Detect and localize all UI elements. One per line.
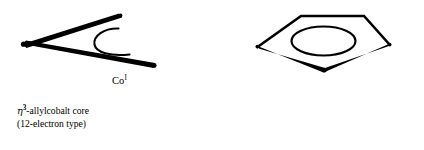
metal-element-symbol: Co bbox=[112, 75, 124, 86]
cp-front-right-edge bbox=[324, 43, 391, 72]
allyl-delocalization-arc bbox=[94, 28, 129, 55]
allyl-lower-terminus bbox=[152, 63, 157, 68]
cp-vertex-bottom bbox=[322, 68, 327, 73]
allyl-caption-line-2: (12-electron type) bbox=[17, 118, 89, 131]
metal-oxidation-state: I bbox=[124, 74, 126, 82]
chemical-structures-figure: CoI η3-allylcobalt core (12-electron typ… bbox=[0, 0, 424, 150]
cp-vertex-left bbox=[256, 45, 260, 49]
allyl-caption-line-1-text: -allylcobalt core bbox=[26, 105, 89, 116]
cp-vertex-right bbox=[388, 43, 392, 47]
allyl-ligand-skeleton bbox=[21, 14, 157, 69]
cp-back-edges bbox=[258, 16, 390, 47]
cyclopentadienyl-ring bbox=[256, 16, 392, 73]
allyl-lower-wedge bbox=[23, 41, 156, 68]
allyl-apex-vertex bbox=[21, 42, 26, 47]
cp-front-left-edge bbox=[256, 46, 325, 73]
allyl-caption-line-1: η3-allylcobalt core bbox=[17, 105, 89, 118]
cyclopentadienyl-pentagon-structure bbox=[212, 0, 424, 150]
metal-center-label-allyl: CoI bbox=[112, 76, 127, 87]
cp-aromatic-circle bbox=[292, 27, 356, 56]
allyl-upper-terminus bbox=[119, 14, 123, 18]
allylcobalt-panel: CoI η3-allylcobalt core (12-electron typ… bbox=[0, 0, 212, 150]
allyl-caption: η3-allylcobalt core (12-electron type) bbox=[17, 105, 89, 130]
cyclopentadienylcobalt-panel: CoI η5-cyclopentadienylcobalt core (14-e… bbox=[212, 0, 424, 150]
